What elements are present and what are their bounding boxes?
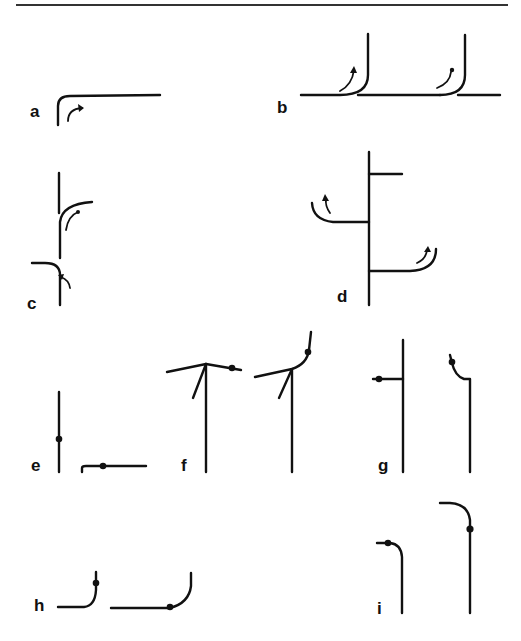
panel-b: b <box>277 34 500 117</box>
panel-e: e <box>31 392 146 475</box>
panel-label-a: a <box>30 102 40 121</box>
marker-dot <box>385 540 392 547</box>
rotation-arrow-icon <box>326 199 330 213</box>
marker-dot <box>449 359 456 366</box>
panel-label-h: h <box>34 596 44 615</box>
marker-dot <box>305 349 312 356</box>
arrowhead-icon <box>424 246 431 252</box>
left-branch <box>312 203 369 222</box>
marker-dot <box>93 580 100 587</box>
upper-bend <box>60 202 92 258</box>
rotation-arrow-icon <box>66 212 78 230</box>
strut-2 <box>279 369 292 398</box>
panel-label-g: g <box>378 456 388 475</box>
panel-label-i: i <box>377 599 382 618</box>
panel-a: a <box>30 95 160 125</box>
rotation-arrow-icon <box>340 70 354 91</box>
arrowhead-icon <box>78 104 84 112</box>
panel-f: f <box>167 332 311 475</box>
arrowhead-icon <box>350 66 357 73</box>
curved-line-2 <box>440 503 470 613</box>
marker-dot <box>229 365 236 372</box>
panel-i: i <box>377 503 474 618</box>
panel-d: d <box>312 152 436 306</box>
marker-dot <box>466 525 473 532</box>
marker-dot <box>376 376 383 383</box>
panel-g: g <box>373 340 470 475</box>
panel-h: h <box>34 572 191 615</box>
panel-label-c: c <box>27 294 36 313</box>
bend-line-2 <box>440 35 465 95</box>
strut-1 <box>193 364 206 398</box>
arrowhead-icon <box>450 68 454 72</box>
rotation-arrow-icon <box>437 72 451 88</box>
arrowhead-icon <box>322 194 329 201</box>
curved-top-line <box>450 355 470 472</box>
figure: a b c d e <box>0 0 521 641</box>
bend-line-1 <box>301 34 368 95</box>
panel-label-d: d <box>337 287 347 306</box>
panel-label-f: f <box>181 456 187 475</box>
crossbar-2 <box>255 332 311 377</box>
panel-label-e: e <box>31 456 40 475</box>
curved-line-1 <box>58 572 96 607</box>
arrowhead-icon <box>76 210 80 214</box>
panel-label-b: b <box>277 98 287 117</box>
marker-dot <box>100 463 107 470</box>
hooked-line <box>82 466 146 472</box>
panel-c: c <box>27 173 92 313</box>
marker-dot <box>167 604 174 611</box>
curved-line-2 <box>111 573 191 608</box>
marker-dot <box>56 436 63 443</box>
